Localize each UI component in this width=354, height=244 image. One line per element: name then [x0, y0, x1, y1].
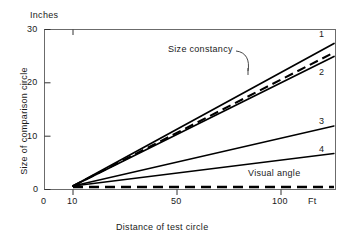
y-unit-label: Inches: [30, 10, 58, 20]
annotation-size-constancy: Size constancy: [168, 44, 233, 54]
x-tick-label-50: 50: [171, 196, 182, 206]
x-tick-label-0: 0: [41, 196, 46, 206]
y-axis-ticks: [45, 30, 51, 190]
series-label-2: 2: [319, 67, 324, 77]
series-label-1: 1: [319, 29, 324, 39]
y-tick-label-30: 30: [27, 24, 38, 34]
y-axis-title-wrapper: Size of comparison circle: [13, 51, 31, 191]
y-tick-label-0: 0: [33, 184, 38, 194]
plot-canvas: [0, 0, 354, 244]
size-constancy-leader-line: [236, 51, 249, 71]
x-axis-title: Distance of test circle: [116, 222, 208, 232]
x-axis-ticks: [73, 190, 281, 196]
series-line-1: [73, 44, 334, 187]
series-label-3: 3: [319, 116, 324, 126]
chart-figure: Inches 30 20 10 0 0 10 50 100 Ft Distanc…: [0, 0, 354, 244]
x-unit-label: Ft: [308, 196, 317, 206]
x-tick-label-100: 100: [272, 196, 288, 206]
annotation-visual-angle: Visual angle: [248, 168, 300, 178]
x-tick-label-10: 10: [67, 196, 78, 206]
series-label-4: 4: [319, 144, 324, 154]
series-line-2: [73, 57, 334, 187]
y-axis-title: Size of comparison circle: [19, 67, 29, 175]
